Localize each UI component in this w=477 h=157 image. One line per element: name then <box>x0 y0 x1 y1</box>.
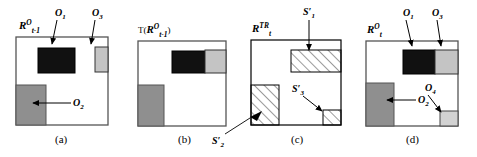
panel-d-object-o3 <box>435 50 458 74</box>
panel-d-object-o1 <box>403 50 435 74</box>
panel-c-region-s1 <box>291 50 341 72</box>
panel-c-region-s3 <box>323 110 341 125</box>
panel-b-object-o2 <box>138 85 164 126</box>
panel-d-object-o4 <box>440 111 458 126</box>
panel-b-caption: (b) <box>178 133 191 146</box>
panel-d-caption: (d) <box>406 133 419 146</box>
panel-a-object-o1 <box>38 48 75 73</box>
figure-svg: ROt-1 O1 O3 O2 (a) T(ROt-1) (b) S′2 <box>0 0 477 157</box>
panel-a-object-o2 <box>16 85 46 125</box>
panel-b-object-o3 <box>205 50 226 73</box>
panel-a-object-o3 <box>95 47 108 72</box>
panel-b-object-o1 <box>172 51 205 73</box>
figure-container: ROt-1 O1 O3 O2 (a) T(ROt-1) (b) S′2 <box>0 0 477 157</box>
panel-a-caption: (a) <box>55 133 68 146</box>
panel-c-caption: (c) <box>291 133 304 146</box>
panel-d-object-o2 <box>366 83 394 126</box>
